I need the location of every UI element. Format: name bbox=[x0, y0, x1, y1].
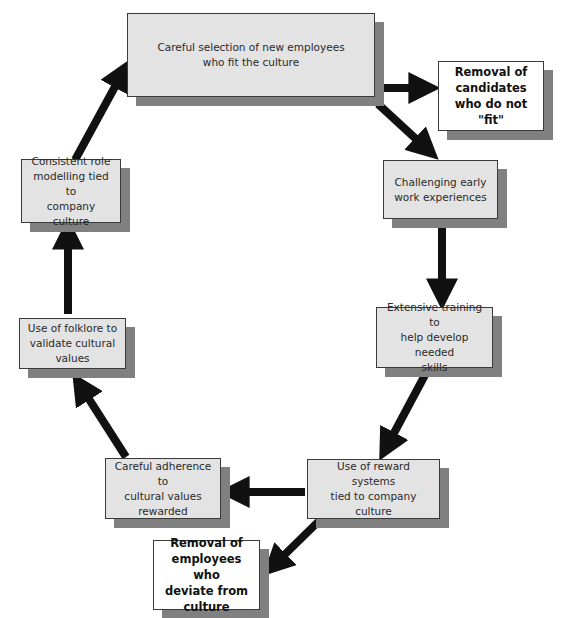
node-label: Removal of candidates who do not "fit" bbox=[445, 64, 537, 128]
arrow-reward-to-removal-employees bbox=[273, 520, 320, 566]
node-careful-adherence: Careful adherence to cultural values rew… bbox=[105, 458, 221, 519]
node-folklore: Use of folklore to validate cultural val… bbox=[19, 318, 126, 369]
node-label: Use of folklore to validate cultural val… bbox=[28, 321, 117, 366]
node-removal-of-employees: Removal of employees who deviate from cu… bbox=[153, 540, 260, 610]
culture-cycle-diagram: Careful selection of new employees who f… bbox=[0, 0, 561, 618]
node-extensive-training: Extensive training to help develop neede… bbox=[376, 307, 493, 368]
arrow-adherence-to-folklore bbox=[80, 385, 126, 457]
arrow-training-to-reward bbox=[386, 375, 425, 448]
node-label: Use of reward systems tied to company cu… bbox=[314, 459, 433, 519]
node-challenging-early-work: Challenging early work experiences bbox=[383, 160, 498, 219]
node-label: Extensive training to help develop neede… bbox=[383, 300, 486, 375]
node-careful-selection: Careful selection of new employees who f… bbox=[127, 13, 375, 97]
node-label: Consistent role modelling tied to compan… bbox=[28, 154, 114, 229]
node-label: Removal of employees who deviate from cu… bbox=[160, 535, 253, 615]
node-reward-systems: Use of reward systems tied to company cu… bbox=[307, 459, 440, 519]
node-label: Challenging early work experiences bbox=[394, 175, 486, 205]
node-removal-of-candidates: Removal of candidates who do not "fit" bbox=[438, 61, 544, 131]
arrow-role-modelling-to-selection bbox=[75, 72, 123, 160]
node-label: Careful adherence to cultural values rew… bbox=[112, 459, 214, 519]
node-label: Careful selection of new employees who f… bbox=[157, 40, 344, 70]
arrow-selection-to-challenging bbox=[378, 104, 428, 150]
node-role-modelling: Consistent role modelling tied to compan… bbox=[21, 159, 121, 223]
